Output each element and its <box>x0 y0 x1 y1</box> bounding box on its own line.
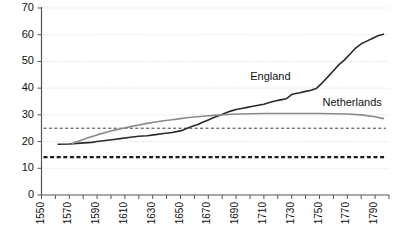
x-tick-label: 1630 <box>147 202 157 224</box>
x-tick-label: 1750 <box>314 202 324 224</box>
x-tick-label: 1790 <box>369 202 379 224</box>
y-tick-label: 70 <box>8 2 34 12</box>
y-tick-label: 20 <box>8 136 34 146</box>
y-tick-label: 30 <box>8 109 34 119</box>
y-tick-label: 0 <box>8 189 34 199</box>
y-tick-label: 50 <box>8 55 34 65</box>
line-chart: 010203040506070 155015701590161016301650… <box>0 0 397 239</box>
x-tick-label: 1550 <box>36 202 46 224</box>
y-tick-label: 10 <box>8 162 34 172</box>
x-tick-label: 1710 <box>258 202 268 224</box>
x-tick-label: 1690 <box>230 202 240 224</box>
x-tick-label: 1590 <box>91 202 101 224</box>
data-series <box>58 34 383 144</box>
x-tick-label: 1770 <box>341 202 351 224</box>
x-tick-label: 1670 <box>202 202 212 224</box>
netherlands-label: Netherlands <box>323 96 382 108</box>
x-tick-marks <box>42 195 390 199</box>
x-tick-label: 1610 <box>119 202 129 224</box>
y-tick-label: 60 <box>8 29 34 39</box>
chart-canvas <box>0 0 397 239</box>
x-tick-label: 1650 <box>175 202 185 224</box>
x-tick-label: 1570 <box>63 202 73 224</box>
england-label: England <box>250 70 290 82</box>
series-line-england <box>58 34 383 144</box>
x-tick-label: 1730 <box>286 202 296 224</box>
y-tick-label: 40 <box>8 82 34 92</box>
y-gridlines <box>42 8 390 168</box>
